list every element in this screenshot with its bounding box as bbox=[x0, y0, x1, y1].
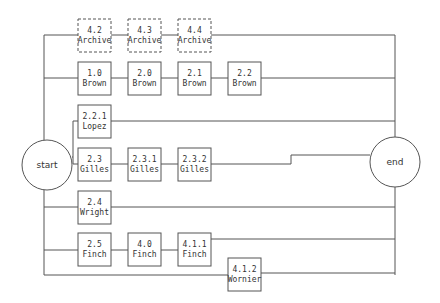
node-id: 4.1.1 bbox=[182, 240, 206, 249]
process-node[interactable]: 2.2Brown bbox=[228, 62, 261, 95]
start-label: start bbox=[37, 160, 58, 170]
process-node[interactable]: 2.4Wright bbox=[78, 191, 111, 224]
node-id: 4.0 bbox=[137, 240, 152, 249]
process-node[interactable]: 2.2.1Lopez bbox=[78, 105, 111, 138]
process-node[interactable]: 1.0Brown bbox=[78, 62, 111, 95]
node-owner: Brown bbox=[182, 79, 206, 88]
node-id: 2.4 bbox=[87, 198, 102, 207]
node-id: 2.0 bbox=[137, 69, 152, 78]
end-node[interactable]: end bbox=[370, 137, 420, 187]
node-owner: Brown bbox=[132, 79, 156, 88]
node-id: 2.3.2 bbox=[182, 155, 206, 164]
process-node[interactable]: 4.3Archive bbox=[128, 19, 162, 52]
node-id: 2.3 bbox=[87, 155, 102, 164]
node-owner: Gilles bbox=[130, 165, 159, 174]
node-id: 2.3.1 bbox=[132, 155, 156, 164]
node-owner: Finch bbox=[82, 250, 106, 259]
row-wornier-line bbox=[44, 273, 395, 275]
node-owner: Finch bbox=[132, 250, 156, 259]
workflow-diagram: start end 4.2Archive4.3Archive4.4Archive… bbox=[0, 0, 440, 303]
start-node[interactable]: start bbox=[22, 140, 72, 190]
node-id: 4.2 bbox=[87, 26, 102, 35]
node-id: 4.3 bbox=[137, 26, 152, 35]
node-owner: Brown bbox=[82, 79, 106, 88]
process-node[interactable]: 2.3.2Gilles bbox=[178, 148, 211, 181]
process-node[interactable]: 4.4Archive bbox=[178, 19, 212, 52]
node-owner: Archive bbox=[78, 36, 112, 45]
node-owner: Lopez bbox=[82, 122, 106, 131]
process-node[interactable]: 2.3Gilles bbox=[78, 148, 111, 181]
process-node[interactable]: 4.0Finch bbox=[128, 233, 161, 266]
node-owner: Wright bbox=[80, 208, 109, 217]
node-id: 2.2 bbox=[237, 69, 252, 78]
process-node[interactable]: 2.0Brown bbox=[128, 62, 161, 95]
node-id: 2.2.1 bbox=[82, 112, 106, 121]
process-node[interactable]: 2.1Brown bbox=[178, 62, 211, 95]
node-owner: Gilles bbox=[180, 165, 209, 174]
node-id: 4.1.2 bbox=[232, 265, 256, 274]
process-node[interactable]: 2.5Finch bbox=[78, 233, 111, 266]
node-owner: Wornier bbox=[228, 275, 262, 284]
process-node[interactable]: 4.1.2Wornier bbox=[228, 258, 262, 291]
start-branch-connector bbox=[72, 121, 73, 164]
process-node[interactable]: 4.2Archive bbox=[78, 19, 112, 52]
process-node[interactable]: 4.1.1Finch bbox=[178, 233, 211, 266]
row-gilles-line bbox=[73, 155, 370, 164]
node-owner: Archive bbox=[128, 36, 162, 45]
node-id: 2.1 bbox=[187, 69, 202, 78]
node-owner: Archive bbox=[178, 36, 212, 45]
node-id: 2.5 bbox=[87, 240, 102, 249]
node-id: 1.0 bbox=[87, 69, 102, 78]
node-owner: Finch bbox=[182, 250, 206, 259]
node-id: 4.4 bbox=[187, 26, 202, 35]
node-owner: Gilles bbox=[80, 165, 109, 174]
node-owner: Brown bbox=[232, 79, 256, 88]
process-node[interactable]: 2.3.1Gilles bbox=[128, 148, 161, 181]
end-label: end bbox=[387, 157, 404, 167]
